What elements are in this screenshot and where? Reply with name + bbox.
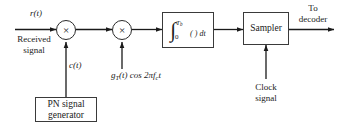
input-signal-label: r(t) <box>16 8 56 18</box>
carrier-signal-label: gT(t) cos 2πfct <box>93 70 179 83</box>
sampler-label: Sampler <box>250 23 282 34</box>
pn-line2: generator <box>48 110 84 120</box>
pn-line1: PN signal <box>47 99 84 109</box>
multiply-icon: × <box>63 24 69 35</box>
input-description-line2: signal <box>6 45 62 55</box>
integral-lower-limit: 0 <box>175 33 179 41</box>
pn-signal-generator-block[interactable]: PN signalgenerator <box>35 97 97 122</box>
integral-upper-limit: Tb <box>176 19 182 27</box>
integrand-label: ( ) dt <box>190 29 206 38</box>
carrier-arg: (t) cos 2πf <box>119 70 156 80</box>
multiply-icon: × <box>119 24 125 35</box>
carrier-tail: t <box>158 70 161 80</box>
multiplier-2[interactable]: × <box>112 20 132 40</box>
block-diagram-figure: r(t) Received signal × × c(t) PN signalg… <box>0 0 340 122</box>
output-label-line1: To <box>290 3 336 13</box>
output-label-line2: decoder <box>287 14 339 24</box>
integral-limits: Tb 0 <box>176 20 190 40</box>
input-description-line1: Received <box>6 34 62 44</box>
integrator-block[interactable]: ∫ Tb 0 ( ) dt <box>162 12 214 48</box>
clock-signal-line1: Clock <box>240 82 292 92</box>
sampler-block[interactable]: Sampler <box>243 12 289 45</box>
multiplier-1[interactable]: × <box>56 20 76 40</box>
pn-code-label: c(t) <box>69 60 93 70</box>
clock-signal-line2: signal <box>240 93 292 103</box>
pn-signal-generator-label: PN signalgenerator <box>47 99 84 121</box>
